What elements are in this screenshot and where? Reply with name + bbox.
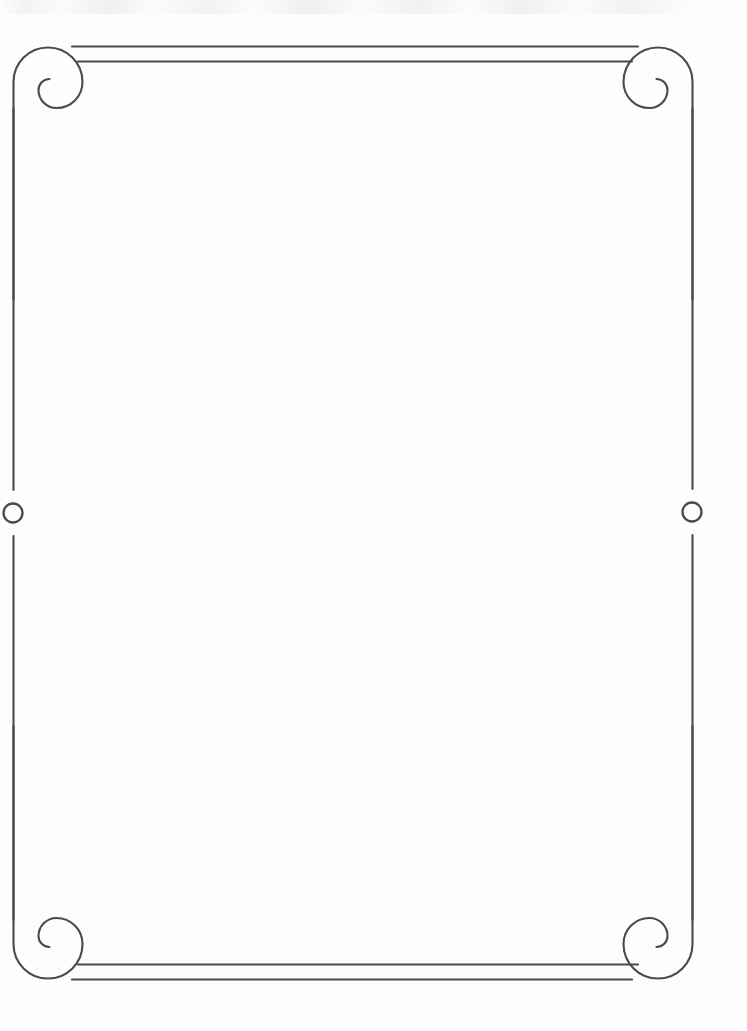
page-canvas [0,0,747,1031]
left-circle-ornament-icon [4,504,23,523]
bottom-left-spiral-icon [14,726,83,979]
top-right-spiral-icon [624,48,693,301]
right-circle-ornament-icon [683,503,702,522]
page-content-area[interactable] [80,70,625,960]
top-left-spiral-icon [14,48,83,301]
bottom-right-spiral-icon [624,726,693,979]
